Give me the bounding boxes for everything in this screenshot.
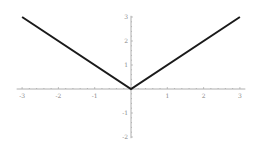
x-tick-label: -2: [55, 92, 61, 99]
y-tick-label: 3: [124, 13, 128, 20]
x-tick-label: -3: [19, 92, 25, 99]
x-tick-label: 1: [165, 92, 169, 99]
tick-labels: -3-2-1123321-1-2: [19, 13, 242, 140]
x-tick-label: -1: [92, 92, 98, 99]
y-tick-label: -2: [122, 133, 128, 140]
axes: [17, 16, 246, 138]
y-tick-label: -1: [122, 109, 128, 116]
x-tick-label: 3: [238, 92, 242, 99]
y-tick-label: 2: [124, 37, 128, 44]
chart: -3-2-1123321-1-2: [0, 0, 257, 144]
y-tick-label: 1: [124, 61, 128, 68]
x-tick-label: 2: [202, 92, 206, 99]
